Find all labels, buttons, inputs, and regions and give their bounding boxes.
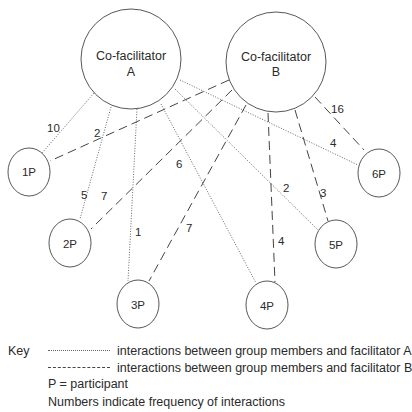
node-participant-6p: 6P [358, 149, 400, 197]
node-b-title: Co-facilitator [241, 50, 311, 64]
dotted-line-sample [48, 350, 110, 353]
node-participant-4p: 4P [246, 281, 288, 329]
edge-a-4p [161, 104, 256, 283]
node-participant-3p: 3P [117, 280, 159, 328]
node-participant-5p: 5P [315, 220, 357, 268]
node-1p-label: 1P [22, 166, 36, 178]
legend-dashed-description: interactions between group members and f… [117, 361, 412, 375]
legend-participant-note: P = participant [48, 377, 128, 391]
legend-key-label: Key [8, 344, 30, 358]
node-3p-label: 3P [131, 299, 145, 311]
legend-dotted-description: interactions between group members and f… [117, 344, 412, 358]
edge-a-2p-count: 5 [81, 189, 87, 201]
node-participant-1p: 1P [8, 148, 50, 196]
edge-a-5p-count: 2 [283, 182, 289, 194]
edge-b-3p-count: 7 [186, 222, 192, 234]
legend: Key interactions between group members a… [0, 340, 411, 412]
node-5p-label: 5P [329, 239, 343, 251]
node-cofacilitator-b: Co-facilitator B [226, 12, 326, 112]
edge-b-4p-count: 4 [278, 235, 285, 247]
dashed-line-sample [48, 367, 110, 370]
edge-b-2p-count: 7 [101, 190, 107, 202]
edge-a-3p-count: 1 [135, 226, 141, 238]
edge-a-2p [80, 107, 111, 219]
edge-a-6p-count: 4 [330, 137, 337, 149]
edge-a-3p [128, 109, 137, 281]
node-participant-2p: 2P [49, 219, 91, 267]
node-6p-label: 6P [372, 168, 386, 180]
edge-b-5p [295, 110, 328, 221]
edge-b-6p-count: 16 [331, 103, 344, 115]
node-4p-label: 4P [260, 300, 274, 312]
edge-b-1p-count: 2 [94, 127, 100, 139]
edge-a-4p-count: 6 [176, 158, 182, 170]
edge-a-5p [175, 89, 318, 230]
edge-b-5p-count: 3 [320, 187, 326, 199]
node-a-title: Co-facilitator [96, 49, 166, 63]
edge-b-3p [149, 105, 246, 281]
edge-b-4p [268, 113, 275, 282]
legend-row-facilitator-a: interactions between group members and f… [48, 344, 412, 358]
legend-numbers-note: Numbers indicate frequency of interactio… [48, 395, 285, 409]
node-cofacilitator-a: Co-facilitator A [81, 9, 181, 109]
interaction-diagram: Co-facilitator A Co-facilitator B 1P 2P … [0, 0, 411, 340]
legend-row-facilitator-b: interactions between group members and f… [48, 361, 412, 375]
edge-a-1p-count: 10 [47, 122, 60, 134]
node-2p-label: 2P [63, 238, 77, 250]
node-a-letter: A [127, 65, 136, 79]
node-b-letter: B [272, 65, 280, 79]
